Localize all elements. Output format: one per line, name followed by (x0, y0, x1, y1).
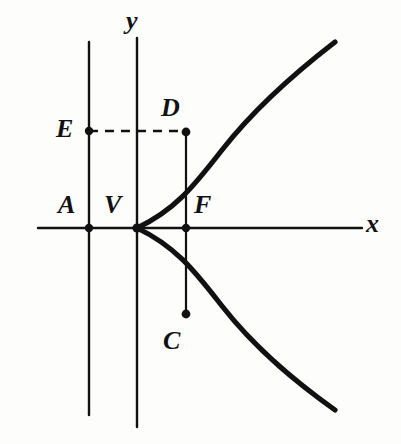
point-label-c: C (163, 328, 180, 354)
figure-canvas (0, 0, 401, 444)
point-e-marker (85, 127, 93, 135)
point-d-marker (182, 128, 191, 137)
x-axis-label: x (366, 211, 379, 237)
point-a-marker (85, 224, 93, 232)
point-label-e: E (56, 116, 73, 142)
parabola-figure: x y A V F E D C (0, 0, 401, 444)
point-f-marker (182, 224, 190, 232)
point-v-marker (132, 223, 141, 232)
point-label-v: V (104, 192, 121, 218)
point-label-a: A (58, 192, 75, 218)
point-label-f: F (194, 192, 211, 218)
point-c-marker (182, 310, 191, 319)
point-label-d: D (161, 95, 180, 121)
y-axis-label: y (126, 8, 138, 34)
